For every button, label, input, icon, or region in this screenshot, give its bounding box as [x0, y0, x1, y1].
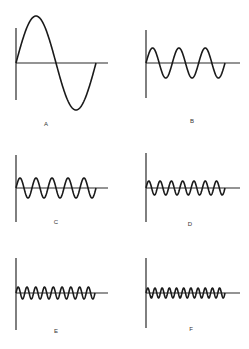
- panel-label: F: [189, 326, 193, 332]
- waveform-diagram: A B C D E F: [0, 0, 249, 349]
- panel-label: A: [44, 121, 48, 127]
- panel-label: E: [54, 328, 58, 334]
- panel-label: B: [190, 118, 194, 124]
- panel-a: A: [16, 16, 108, 127]
- panel-f: F: [146, 258, 240, 332]
- sine-wave: [146, 181, 225, 195]
- panel-e: E: [16, 258, 108, 334]
- panel-label: C: [54, 219, 59, 225]
- panel-c: C: [16, 155, 108, 225]
- panel-label: D: [188, 221, 193, 227]
- panel-d: D: [146, 153, 240, 227]
- panel-b: B: [146, 30, 240, 124]
